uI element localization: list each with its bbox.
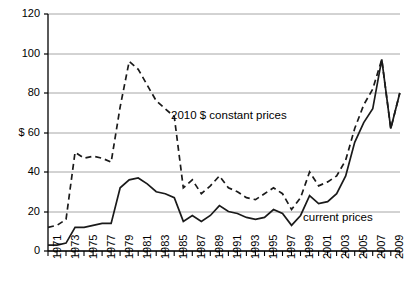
- x-tick-label-2001: 2001: [322, 235, 333, 259]
- y-tick-label-120: 120: [2, 8, 40, 19]
- y-tick-label-60: $ 60: [2, 127, 40, 138]
- x-tick-label-1973: 1973: [70, 235, 81, 259]
- x-tick-label-2005: 2005: [358, 235, 369, 259]
- x-tick-label-1989: 1989: [214, 235, 225, 259]
- x-tick-label-1991: 1991: [232, 235, 243, 259]
- x-tick-label-1975: 1975: [88, 235, 99, 259]
- x-tick-label-1997: 1997: [286, 235, 297, 259]
- x-tick-label-1971: 1971: [52, 235, 63, 259]
- x-tick-label-1987: 1987: [196, 235, 207, 259]
- x-tick-label-2003: 2003: [340, 235, 351, 259]
- x-tick-label-1981: 1981: [142, 235, 153, 259]
- x-tick-label-1995: 1995: [268, 235, 279, 259]
- y-tick-label-0: 0: [2, 245, 40, 256]
- x-tick-label-1979: 1979: [124, 235, 135, 259]
- y-tick-label-40: 40: [2, 166, 40, 177]
- x-tick-label-1983: 1983: [160, 235, 171, 259]
- x-tick-label-1985: 1985: [178, 235, 189, 259]
- y-tick-label-80: 80: [2, 87, 40, 98]
- annotation-constant-prices: 2010 $ constant prices: [171, 109, 287, 121]
- x-tick-label-1999: 1999: [304, 235, 315, 259]
- oil-price-line-chart: 120 100 80 $ 60 40 20 0 1971 1973 1975 1…: [0, 0, 405, 294]
- x-tick-label-1993: 1993: [250, 235, 261, 259]
- x-tick-label-2007: 2007: [376, 235, 387, 259]
- x-tick-label-2009: 2009: [394, 235, 405, 259]
- y-tick-label-20: 20: [2, 206, 40, 217]
- y-tick-label-100: 100: [2, 48, 40, 59]
- annotation-current-prices: current prices: [303, 211, 373, 223]
- x-tick-label-1977: 1977: [106, 235, 117, 259]
- series-line-constant-prices: [48, 59, 400, 227]
